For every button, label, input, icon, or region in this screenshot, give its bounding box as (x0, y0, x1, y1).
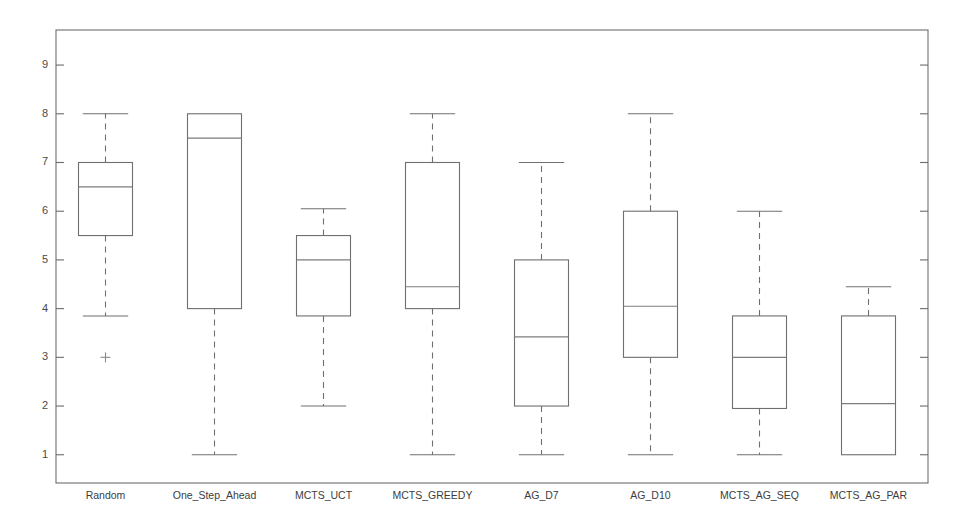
x-axis-category-label: MCTS_AG_SEQ (720, 489, 799, 501)
y-tick-label: 8 (42, 107, 48, 119)
x-axis-category-label: One_Step_Ahead (173, 489, 257, 501)
y-tick-label: 9 (42, 58, 48, 70)
x-axis-category-label: MCTS_AG_PAR (830, 489, 908, 501)
x-axis-category-label: MCTS_GREEDY (393, 489, 473, 501)
x-axis-category-label: MCTS_UCT (295, 489, 353, 501)
y-tick-label: 7 (42, 155, 48, 167)
y-tick-label: 3 (42, 350, 48, 362)
y-tick-label: 2 (42, 399, 48, 411)
y-tick-label: 6 (42, 204, 48, 216)
x-axis-category-label: Random (86, 489, 126, 501)
boxplot-chart: 123456789 RandomOne_Step_AheadMCTS_UCTMC… (0, 0, 957, 523)
y-tick-label: 5 (42, 253, 48, 265)
chart-background (0, 0, 957, 523)
boxplot-svg: 123456789 RandomOne_Step_AheadMCTS_UCTMC… (0, 0, 957, 523)
x-axis-category-label: AG_D7 (524, 489, 559, 501)
x-axis-category-label: AG_D10 (630, 489, 670, 501)
y-tick-label: 1 (42, 448, 48, 460)
y-tick-label: 4 (42, 302, 48, 314)
